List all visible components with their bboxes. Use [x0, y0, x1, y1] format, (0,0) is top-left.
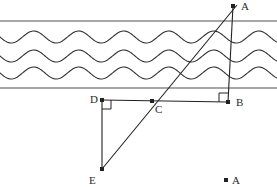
point-dot-D: [100, 98, 104, 102]
point-dot-E: [100, 167, 104, 171]
point-label-A: A: [241, 0, 249, 12]
point-label-D: D: [90, 93, 98, 105]
point-label-E: E: [89, 174, 96, 186]
diagram-background: [0, 0, 277, 187]
point-dot-A2: [224, 178, 228, 182]
diagram-canvas: ABCDEA: [0, 0, 277, 187]
point-label-C: C: [155, 103, 162, 115]
point-label-A2: A: [232, 174, 240, 186]
point-dot-A: [231, 4, 235, 8]
point-dot-B: [226, 100, 230, 104]
point-dot-C: [150, 99, 154, 103]
geometry-diagram: ABCDEA: [0, 0, 277, 187]
point-label-B: B: [236, 96, 243, 108]
